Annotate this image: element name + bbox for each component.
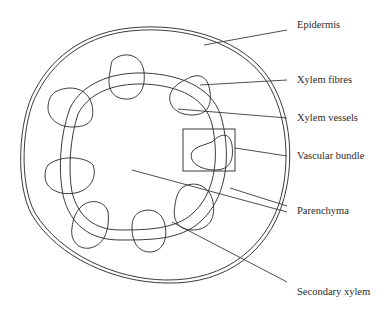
- label-vascular-bundle: Vascular bundle: [297, 151, 364, 162]
- label-secondary-xylem: Secondary xylem: [297, 287, 370, 298]
- xylem-bundle: [109, 55, 144, 99]
- label-xylem-vessels: Xylem vessels: [297, 113, 358, 124]
- leader-parenchyma-2: [230, 188, 287, 206]
- xylem-bundle: [132, 210, 166, 252]
- leader-epidermis: [204, 30, 287, 45]
- label-epidermis: Epidermis: [297, 20, 340, 31]
- leader-vascular-bundle: [235, 148, 287, 156]
- label-xylem-fibres: Xylem fibres: [297, 75, 352, 86]
- vascular-ring: [60, 73, 226, 240]
- leader-xylem-vessels: [178, 109, 287, 118]
- vascular-bundle-highlight-box: [183, 129, 235, 171]
- xylem-bundle: [72, 202, 109, 249]
- label-parenchyma: Parenchyma: [297, 206, 349, 217]
- leader-lines: [132, 30, 287, 282]
- leader-xylem-fibres: [200, 80, 287, 85]
- leader-parenchyma-1: [132, 170, 287, 212]
- xylem-bundle: [174, 184, 213, 230]
